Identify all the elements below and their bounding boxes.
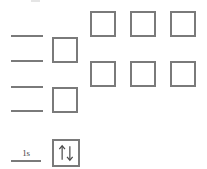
- orbital-box-middle-1[interactable]: [52, 37, 78, 63]
- spin-down-arrow: [67, 146, 73, 160]
- electron-pair-arrows: [54, 141, 78, 165]
- spin-up-arrow: [59, 146, 65, 160]
- orbital-box-right-row2-col1[interactable]: [90, 61, 116, 87]
- top-edge-artifact: [31, 0, 40, 2]
- orbital-box-right-row2-col2[interactable]: [130, 61, 156, 87]
- energy-level-line-4: [11, 110, 43, 112]
- orbital-box-right-row1-col2[interactable]: [130, 11, 156, 37]
- energy-level-line-2: [11, 60, 43, 62]
- orbital-label-1s: 1s: [14, 149, 38, 158]
- orbital-box-middle-2[interactable]: [52, 87, 78, 113]
- orbital-box-right-row1-col1[interactable]: [90, 11, 116, 37]
- orbital-diagram-canvas: 1s: [0, 0, 207, 169]
- orbital-box-right-row1-col3[interactable]: [170, 11, 196, 37]
- orbital-label-underline: [11, 160, 41, 162]
- orbital-box-right-row2-col3[interactable]: [170, 61, 196, 87]
- orbital-box-1s-occupied[interactable]: [52, 139, 80, 167]
- energy-level-line-3: [11, 86, 43, 88]
- energy-level-line-1: [11, 35, 43, 37]
